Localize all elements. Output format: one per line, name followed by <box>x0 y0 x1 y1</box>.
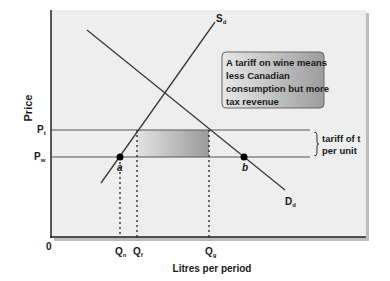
plot-panel <box>51 10 366 237</box>
pw-label: Pw <box>34 151 46 163</box>
point-b-marker <box>241 154 248 161</box>
point-a-label: a <box>117 162 123 173</box>
qn-label: Qn <box>115 246 127 258</box>
qf-label: Qf <box>133 246 144 258</box>
point-a-marker <box>117 154 124 161</box>
pt-label: Pt <box>37 124 46 136</box>
x-axis-label: Litres per period <box>173 263 252 274</box>
point-b-label: b <box>242 162 248 173</box>
origin-label: 0 <box>46 241 52 252</box>
tariff-revenue-area <box>137 130 209 157</box>
qg-label: Qg <box>205 246 217 258</box>
tariff-diagram: a b Sd Dd Pt Pw Price 0 Qn Qf Qg Litres … <box>0 0 390 281</box>
y-axis-label: Price <box>22 95 34 122</box>
